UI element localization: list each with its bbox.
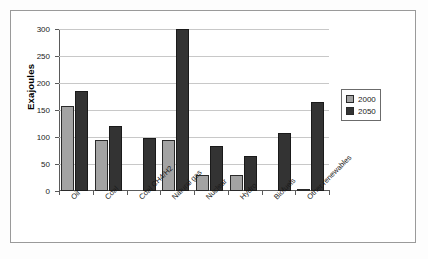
legend-label-2050: 2050 xyxy=(358,107,376,116)
legend-label-2000: 2000 xyxy=(358,95,376,104)
bar-2050-natural-gas xyxy=(176,29,189,191)
bar-group xyxy=(194,29,228,191)
bar-2050-coal xyxy=(109,126,122,191)
bar-2000-oil xyxy=(61,106,74,191)
bar-2000-hydro xyxy=(230,175,243,191)
bar-group xyxy=(262,29,296,191)
x-axis-tick xyxy=(93,191,94,195)
x-axis-tick xyxy=(228,191,229,195)
bar-group xyxy=(228,29,262,191)
x-axis-tick xyxy=(160,191,161,195)
plot-area: 050100150200250300 OilCoalCoal CH4/H2Nat… xyxy=(59,29,329,191)
y-axis-title: Exajoules xyxy=(25,64,36,110)
bar-group xyxy=(295,29,329,191)
y-axis-tick-label: 200 xyxy=(37,79,50,88)
y-axis-tick-label: 0 xyxy=(46,187,50,196)
x-axis-tick xyxy=(262,191,263,195)
x-axis-tick xyxy=(127,191,128,195)
bar-group xyxy=(59,29,93,191)
x-axis-tick xyxy=(295,191,296,195)
y-axis-tick-label: 100 xyxy=(37,133,50,142)
legend-swatch-2000 xyxy=(346,95,354,103)
x-axis-tick xyxy=(59,191,60,195)
y-axis-tick-label: 150 xyxy=(37,106,50,115)
bar-2050-oil xyxy=(75,91,88,191)
bar-group xyxy=(93,29,127,191)
bar-group xyxy=(127,29,161,191)
chart-figure: Exajoules 050100150200250300 OilCoalCoal… xyxy=(0,0,428,259)
y-axis-tick-label: 50 xyxy=(41,160,50,169)
legend-swatch-2050 xyxy=(346,107,354,115)
x-axis-tick xyxy=(194,191,195,195)
figure-frame: Exajoules 050100150200250300 OilCoalCoal… xyxy=(10,10,416,243)
y-axis-tick-label: 300 xyxy=(37,25,50,34)
chart-legend: 20002050 xyxy=(341,89,381,121)
legend-item-2050: 2050 xyxy=(346,105,376,117)
bar-2000-coal xyxy=(95,140,108,191)
legend-item-2000: 2000 xyxy=(346,93,376,105)
y-axis-tick-label: 250 xyxy=(37,52,50,61)
x-axis-tick xyxy=(329,191,330,195)
